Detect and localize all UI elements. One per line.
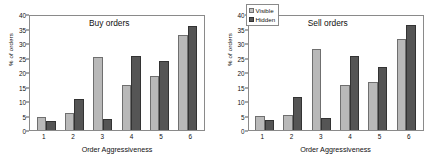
plot-area [248,15,424,131]
bar-hidden-4 [131,56,141,130]
x-axis-label: Order Aggressiveness [248,145,424,154]
bar-hidden-1 [265,120,275,130]
bar-hidden-4 [350,56,360,130]
y-axis-ticks: 0510152025303540 [229,15,245,131]
y-tick-label: 10 [229,99,245,106]
y-tick-label: 0 [10,128,26,135]
bar-group [307,16,335,130]
bar-group [335,16,363,130]
y-tick-label: 40 [229,12,245,19]
x-tick-label: 3 [306,133,335,145]
bar-visible-6 [397,39,407,130]
bar-visible-5 [368,82,378,130]
x-tick-label: 5 [365,133,394,145]
y-tick-label: 25 [229,55,245,62]
bar-group [392,16,420,130]
legend-swatch-visible-icon [249,8,254,13]
y-tick-label: 30 [229,41,245,48]
y-tick-label: 10 [10,99,26,106]
x-tick-label: 4 [117,133,146,145]
bar-visible-4 [122,85,132,130]
bar-chart-figure: % of orders 0510152025303540 Buy orders … [0,0,437,167]
bar-group [145,16,173,130]
bar-visible-4 [340,85,350,130]
bar-hidden-1 [46,121,56,130]
bar-group [279,16,307,130]
x-tick-label: 6 [176,133,205,145]
bar-group [117,16,145,130]
bar-visible-3 [312,49,322,130]
y-tick-label: 15 [229,84,245,91]
y-tick-label: 35 [10,26,26,33]
y-tick-label: 20 [229,70,245,77]
chart-panel-buy-orders: % of orders 0510152025303540 Buy orders … [0,0,219,167]
y-tick-label: 15 [10,84,26,91]
y-tick-label: 30 [10,41,26,48]
legend-label-visible: Visible [256,7,274,14]
bar-visible-3 [93,57,103,130]
bar-hidden-6 [188,26,198,130]
bar-visible-1 [37,117,47,130]
x-axis-label: Order Aggressiveness [29,145,205,154]
bar-visible-5 [150,76,160,130]
x-tick-label: 1 [29,133,58,145]
plot-area [29,15,205,131]
y-tick-label: 20 [10,70,26,77]
y-tick-label: 25 [10,55,26,62]
x-tick-label: 6 [394,133,423,145]
x-tick-label: 3 [88,133,117,145]
bar-group [89,16,117,130]
x-tick-label: 2 [277,133,306,145]
bar-group [60,16,88,130]
bar-hidden-6 [406,25,416,130]
legend: Visible Hidden [246,4,280,26]
y-tick-label: 0 [229,128,245,135]
y-tick-label: 5 [10,113,26,120]
bar-visible-2 [65,113,75,130]
bar-group [174,16,202,130]
y-axis-ticks: 0510152025303540 [10,15,26,131]
bar-visible-6 [178,35,188,130]
legend-swatch-hidden-icon [249,17,254,22]
bar-visible-2 [283,115,293,130]
bar-hidden-2 [293,97,303,130]
legend-item-hidden: Hidden [249,16,276,23]
legend-label-hidden: Hidden [256,16,276,23]
legend-item-visible: Visible [249,7,276,14]
bar-visible-1 [255,116,265,131]
bar-groups [249,16,423,130]
y-tick-label: 40 [10,12,26,19]
x-tick-label: 4 [335,133,364,145]
x-axis-ticks: 123456 [29,133,205,145]
bar-hidden-2 [74,99,84,130]
x-tick-label: 5 [146,133,175,145]
bar-groups [30,16,204,130]
x-tick-label: 2 [58,133,87,145]
bar-group [251,16,279,130]
bar-hidden-3 [103,119,113,130]
bar-hidden-5 [159,61,169,130]
bar-hidden-5 [378,67,388,130]
bar-hidden-3 [321,118,331,130]
bar-group [32,16,60,130]
x-tick-label: 1 [248,133,277,145]
chart-panel-sell-orders: % of orders 0510152025303540 Sell orders… [219,0,437,167]
x-axis-ticks: 123456 [248,133,424,145]
bar-group [364,16,392,130]
y-tick-label: 35 [229,26,245,33]
y-tick-label: 5 [229,113,245,120]
